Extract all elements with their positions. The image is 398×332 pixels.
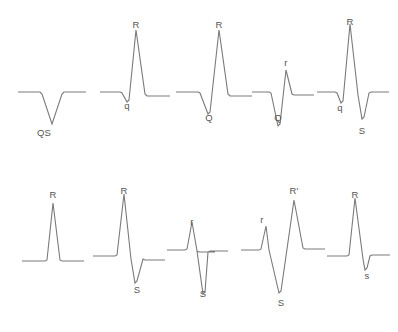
label-r-R: R: [49, 190, 56, 200]
qrs-complex-Rs: [324, 195, 393, 273]
qrs-complex-rS: [164, 219, 231, 297]
label-s-RS: S: [134, 285, 141, 295]
label-r-QR: R: [215, 20, 222, 30]
qrs-complex-rSR: [238, 197, 328, 296]
label-qs-qs: QS: [37, 128, 51, 138]
label-r-prime-rSR: R': [289, 186, 298, 196]
qrs-complex-qRS: [314, 21, 392, 122]
label-s-qRS: S: [359, 126, 366, 136]
qrs-complex-qs: [15, 89, 89, 127]
qrs-trace-qRS: [317, 24, 389, 119]
label-q-Qr: Q: [274, 113, 282, 123]
label-r-Rs: R: [351, 190, 358, 200]
qrs-trace-qr: [100, 30, 170, 102]
label-q-QR: Q: [205, 113, 213, 123]
qrs-trace-rS: [167, 222, 228, 294]
label-q-qr: q: [124, 101, 129, 111]
ecg-qrs-nomenclature-figure: QSRqRQrQRqSRRSrSR'rSRs: [0, 0, 398, 332]
label-r-Qr: r: [284, 58, 287, 68]
label-q-qRS: q: [337, 103, 342, 113]
qrs-trace-QR: [176, 30, 252, 114]
qrs-complex-RS: [90, 191, 168, 286]
qrs-trace-RS: [93, 194, 165, 283]
qrs-trace-Rs: [327, 198, 390, 270]
qrs-complex-qr: [97, 27, 173, 105]
qrs-trace-qs: [18, 92, 86, 124]
label-r-rSR: r: [260, 215, 263, 225]
qrs-trace-Qr: [252, 70, 314, 126]
qrs-trace-R: [22, 203, 84, 261]
qrs-complex-QR: [173, 27, 255, 117]
qrs-complex-Qr: [249, 67, 317, 129]
label-r-rS: r: [190, 217, 193, 227]
qrs-complex-R: [19, 200, 87, 264]
label-r-qRS: R: [346, 17, 353, 27]
label-r-qr: R: [132, 20, 139, 30]
qrs-trace-rSR: [241, 200, 325, 293]
label-s-Rs: s: [365, 271, 370, 281]
label-r-RS: R: [120, 186, 127, 196]
label-s-rSR: S: [278, 298, 285, 308]
label-s-rS: S: [200, 289, 207, 299]
